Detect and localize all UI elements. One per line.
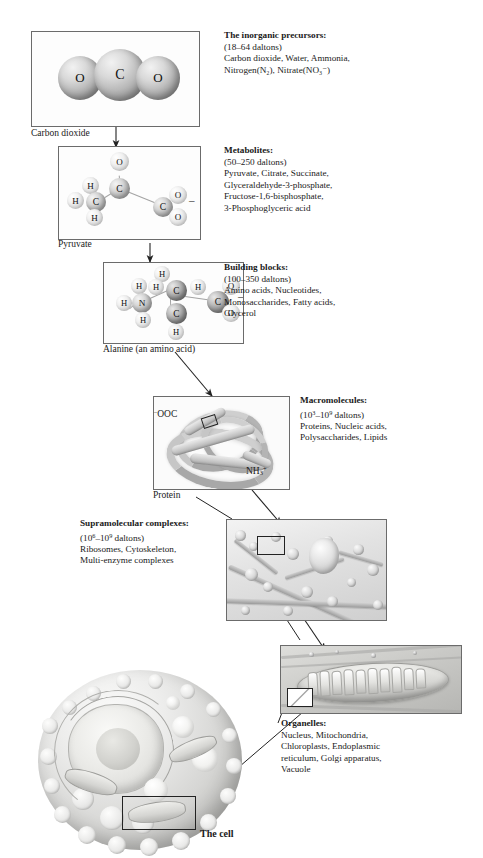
atom-hydrogen-amine-left: H	[116, 295, 132, 311]
annotation-inorganic-precursors: The inorganic precursors: (18–64 daltons…	[224, 30, 474, 76]
mass-suffix: daltons)	[112, 532, 144, 542]
examples-macromolecules-line-1: Proteins, Nucleic acids,	[300, 421, 480, 433]
atom-hydrogen-amine-lower: H	[135, 312, 151, 328]
mass-base-1: 10	[83, 532, 92, 542]
caption-protein: Protein	[153, 490, 180, 500]
vacuole-4	[166, 696, 180, 710]
mass-suffix: daltons)	[332, 409, 364, 419]
mass-range-macromolecules: (103–109 daltons)	[300, 407, 480, 421]
mitochondrion-body	[296, 659, 450, 707]
atom-hydrogen-lower: H	[86, 209, 103, 226]
cell-illustration	[20, 660, 260, 856]
atom-oxygen-top: O	[110, 152, 129, 171]
heading-metabolites: Metabolites:	[224, 145, 474, 157]
examples-organelles-line-2: Chloroplasts, Endoplasmic	[281, 741, 471, 753]
annotation-supramolecular-complexes: Supramolecular complexes: (106–109 dalto…	[80, 518, 230, 567]
examples-organelles-line-4: Vacuole	[281, 764, 471, 776]
molecule-pyruvate: O C H H C H C O O –	[59, 147, 200, 239]
annotation-building-blocks: Building blocks: (100–350 daltons) Amino…	[224, 262, 474, 320]
mass-range-metabolites: (50–250 daltons)	[224, 157, 474, 169]
caption-alanine: Alanine (an amino acid)	[103, 344, 195, 354]
mass-base-2: 10	[100, 532, 109, 542]
examples-supramolecular-line-2: Multi-enzyme complexes	[80, 555, 230, 567]
examples-metabolites-line-4: 3-Phosphoglyceric acid	[224, 203, 474, 215]
mass-base-1: 10	[303, 409, 312, 419]
atom-oxygen-carboxyl-upper: O	[169, 186, 187, 204]
molecule-carbon-dioxide: O C O	[32, 32, 199, 126]
examples-metabolites-line-2: Glyceraldehyde-3-phosphate,	[224, 180, 474, 192]
mass-range-inorganic-precursors: (18–64 daltons)	[224, 42, 474, 54]
label-protein-n-terminus: –OOC	[154, 406, 177, 421]
panel-alanine: H H H N H H C H C H C O O –	[103, 262, 244, 344]
mass-exp-1: 3	[312, 409, 315, 416]
examples-building-blocks-line-1: Amino acids, Nucleotides,	[224, 285, 474, 297]
examples-supramolecular-line-1: Ribosomes, Cytoskeleton,	[80, 544, 230, 556]
mass-exp-1: 6	[92, 532, 95, 539]
atom-oxygen-carboxyl-lower: O	[169, 208, 187, 226]
atom-hydrogen-beta-bottom: H	[168, 324, 184, 340]
heading-macromolecules: Macromolecules:	[300, 395, 480, 407]
panel-carbon-dioxide: O C O	[31, 31, 200, 127]
examples-organelles-line-1: Nucleus, Mitochondria,	[281, 730, 471, 742]
examples-organelles-line-3: reticulum, Golgi apparatus,	[281, 753, 471, 765]
charge-pyruvate: –	[189, 194, 195, 206]
mitochondrion-micrograph	[281, 646, 461, 713]
atom-hydrogen-beta-right: H	[190, 279, 206, 295]
examples-inorganic-precursors-line-1: Carbon dioxide, Water, Ammonia,	[224, 53, 474, 65]
panel-pyruvate: O C H H C H C O O –	[58, 146, 201, 240]
organelle-zoom-highlight-box	[287, 688, 313, 707]
figure-canvas: O C O Carbon dioxide The inorganic precu…	[0, 0, 483, 858]
atom-oxygen-right: O	[136, 56, 180, 100]
atom-hydrogen-alpha: H	[148, 279, 164, 295]
molecule-alanine: H H H N H H C H C H C O O –	[104, 263, 243, 343]
label-protein-c-terminus: NH3+	[246, 463, 267, 479]
atom-hydrogen-amine-upper: H	[131, 278, 147, 294]
examples-metabolites-line-1: Pyruvate, Citrate, Succinate,	[224, 168, 474, 180]
heading-organelles: Organelles:	[281, 718, 471, 730]
examples-inorganic-precursors-line-2: Nitrogen(N₂), Nitrate(NO₃⁻)	[224, 65, 474, 77]
atom-hydrogen-left: H	[67, 192, 84, 209]
mass-range-building-blocks: (100–350 daltons)	[224, 274, 474, 286]
examples-building-blocks-line-2: Monosaccharides, Fatty acids,	[224, 297, 474, 309]
caption-the-cell: The cell	[200, 829, 234, 839]
atom-carbon-beta: C	[166, 303, 187, 324]
atom-carbon-alpha: C	[166, 280, 187, 301]
mass-base-2: 10	[320, 409, 329, 419]
atom-nitrogen: N	[132, 293, 152, 313]
annotation-organelles: Organelles: Nucleus, Mitochondria, Chlor…	[281, 718, 471, 776]
c-terminus-superscript: +	[263, 465, 267, 472]
c-terminus-text: NH	[246, 466, 260, 476]
panel-supramolecular-complexes	[226, 519, 387, 621]
annotation-metabolites: Metabolites: (50–250 daltons) Pyruvate, …	[224, 145, 474, 215]
examples-metabolites-line-3: Fructose-1,6-bisphosphate,	[224, 191, 474, 203]
caption-carbon-dioxide: Carbon dioxide	[31, 128, 90, 138]
cytoskeleton-micrograph	[227, 520, 386, 620]
cell-zoom-highlight-box	[122, 796, 196, 830]
annotation-macromolecules: Macromolecules: (103–109 daltons) Protei…	[300, 395, 480, 444]
examples-macromolecules-line-2: Polysaccharides, Lipids	[300, 432, 480, 444]
caption-pyruvate: Pyruvate	[58, 239, 92, 249]
mass-range-supramolecular-complexes: (106–109 daltons)	[80, 530, 230, 544]
examples-building-blocks-line-3: Glycerol	[224, 308, 474, 320]
heading-supramolecular-complexes: Supramolecular complexes:	[80, 518, 230, 530]
heading-building-blocks: Building blocks:	[224, 262, 474, 274]
n-terminus-text: OOC	[157, 409, 177, 419]
panel-organelle-mitochondrion	[280, 645, 462, 714]
heading-inorganic-precursors: The inorganic precursors:	[224, 30, 474, 42]
atom-carbon-middle: C	[109, 178, 130, 199]
supramolecular-zoom-highlight-box	[257, 536, 285, 555]
